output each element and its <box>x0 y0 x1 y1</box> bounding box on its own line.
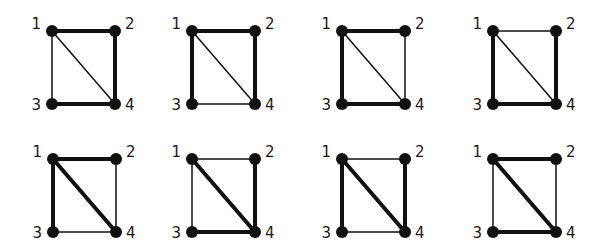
thick-edge-1-4 <box>192 159 255 232</box>
graph-6: 1234 <box>171 143 274 242</box>
node-label-4: 4 <box>265 224 275 242</box>
node-label-1: 1 <box>472 15 482 33</box>
node-label-3: 3 <box>472 96 482 114</box>
node-2 <box>109 25 121 37</box>
node-2 <box>249 153 261 165</box>
node-label-3: 3 <box>171 96 181 114</box>
node-2 <box>399 25 411 37</box>
node-3 <box>47 226 59 238</box>
node-label-1: 1 <box>472 143 482 161</box>
node-3 <box>336 226 348 238</box>
node-2 <box>110 153 122 165</box>
node-1 <box>47 153 59 165</box>
node-1 <box>46 25 58 37</box>
node-2 <box>550 25 562 37</box>
node-3 <box>336 98 348 110</box>
node-label-1: 1 <box>171 143 181 161</box>
node-1 <box>336 153 348 165</box>
node-4 <box>399 98 411 110</box>
node-3 <box>46 98 58 110</box>
node-1 <box>186 25 198 37</box>
node-label-4: 4 <box>415 96 425 114</box>
node-1 <box>487 153 499 165</box>
thin-edge-1-4 <box>192 31 255 104</box>
node-1 <box>336 25 348 37</box>
node-2 <box>249 25 261 37</box>
graph-5: 1234 <box>32 143 135 242</box>
node-4 <box>109 98 121 110</box>
node-1 <box>487 25 499 37</box>
node-label-1: 1 <box>32 143 42 161</box>
node-label-3: 3 <box>321 224 331 242</box>
node-label-4: 4 <box>566 224 576 242</box>
node-4 <box>249 226 261 238</box>
node-label-4: 4 <box>566 96 576 114</box>
node-label-2: 2 <box>265 15 275 33</box>
node-4 <box>249 98 261 110</box>
node-2 <box>399 153 411 165</box>
thin-edge-1-4 <box>52 31 115 104</box>
graph-2: 1234 <box>171 15 274 114</box>
node-2 <box>550 153 562 165</box>
node-label-2: 2 <box>415 143 425 161</box>
node-4 <box>550 98 562 110</box>
node-label-1: 1 <box>321 15 331 33</box>
thick-edge-1-4 <box>493 159 556 232</box>
node-label-3: 3 <box>472 224 482 242</box>
node-1 <box>186 153 198 165</box>
node-3 <box>186 98 198 110</box>
node-label-3: 3 <box>321 96 331 114</box>
node-label-4: 4 <box>126 224 136 242</box>
node-label-3: 3 <box>171 224 181 242</box>
node-label-2: 2 <box>566 143 576 161</box>
graph-7: 1234 <box>321 143 424 242</box>
node-label-3: 3 <box>31 96 41 114</box>
node-3 <box>487 226 499 238</box>
node-label-2: 2 <box>265 143 275 161</box>
graph-1: 1234 <box>31 15 134 114</box>
node-label-4: 4 <box>415 224 425 242</box>
thin-edge-1-4 <box>493 31 556 104</box>
node-label-1: 1 <box>321 143 331 161</box>
node-label-2: 2 <box>126 143 136 161</box>
thick-edge-1-4 <box>53 159 116 232</box>
graph-3: 1234 <box>321 15 424 114</box>
node-4 <box>399 226 411 238</box>
node-label-2: 2 <box>415 15 425 33</box>
graph-diagram-canvas: 12341234123412341234123412341234 <box>0 0 603 243</box>
node-label-2: 2 <box>566 15 576 33</box>
node-label-4: 4 <box>125 96 135 114</box>
node-3 <box>487 98 499 110</box>
node-label-2: 2 <box>125 15 135 33</box>
thick-edge-1-4 <box>342 159 405 232</box>
node-label-3: 3 <box>32 224 42 242</box>
node-label-4: 4 <box>265 96 275 114</box>
node-3 <box>186 226 198 238</box>
thin-edge-1-4 <box>342 31 405 104</box>
node-label-1: 1 <box>171 15 181 33</box>
node-4 <box>110 226 122 238</box>
graph-4: 1234 <box>472 15 575 114</box>
graph-8: 1234 <box>472 143 575 242</box>
node-4 <box>550 226 562 238</box>
node-label-1: 1 <box>31 15 41 33</box>
